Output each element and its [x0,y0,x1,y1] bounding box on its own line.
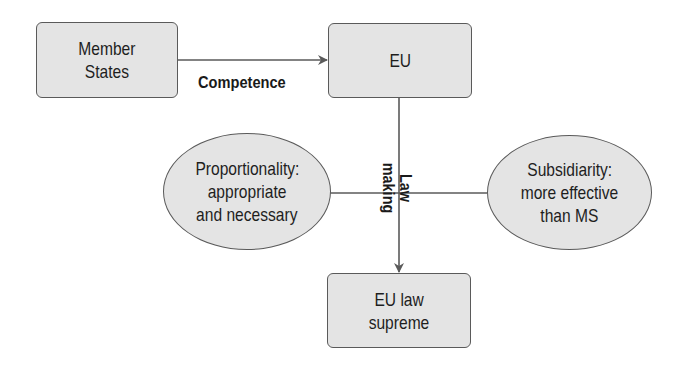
node-text-line: EU [389,49,411,72]
diagram-canvas: Member States EU Competence Proportional… [0,0,683,368]
law-making-label-line: making [380,163,397,214]
member-states-node: Member States [36,22,178,98]
node-text-line: Member [78,37,135,60]
node-text-line: and necessary [196,203,297,226]
node-text-line: supreme [369,311,430,334]
node-text-line: than MS [540,204,598,227]
eu-node: EU [328,23,472,98]
node-text-line: EU law [374,288,423,311]
node-text-line: more effective [521,181,619,204]
proportionality-node: Proportionality: appropriate and necessa… [163,133,331,250]
node-text-line: appropriate [208,180,287,203]
node-text-line: States [85,60,129,83]
node-text-line: Proportionality: [195,157,299,180]
eu-law-supreme-node: EU law supreme [327,273,471,348]
subsidiarity-node: Subsidiarity: more effective than MS [487,135,652,250]
competence-label: Competence [198,73,286,93]
node-text-line: Subsidiarity: [527,158,612,181]
law-making-label-line: Law [397,163,414,214]
law-making-label: Law making [376,158,414,218]
